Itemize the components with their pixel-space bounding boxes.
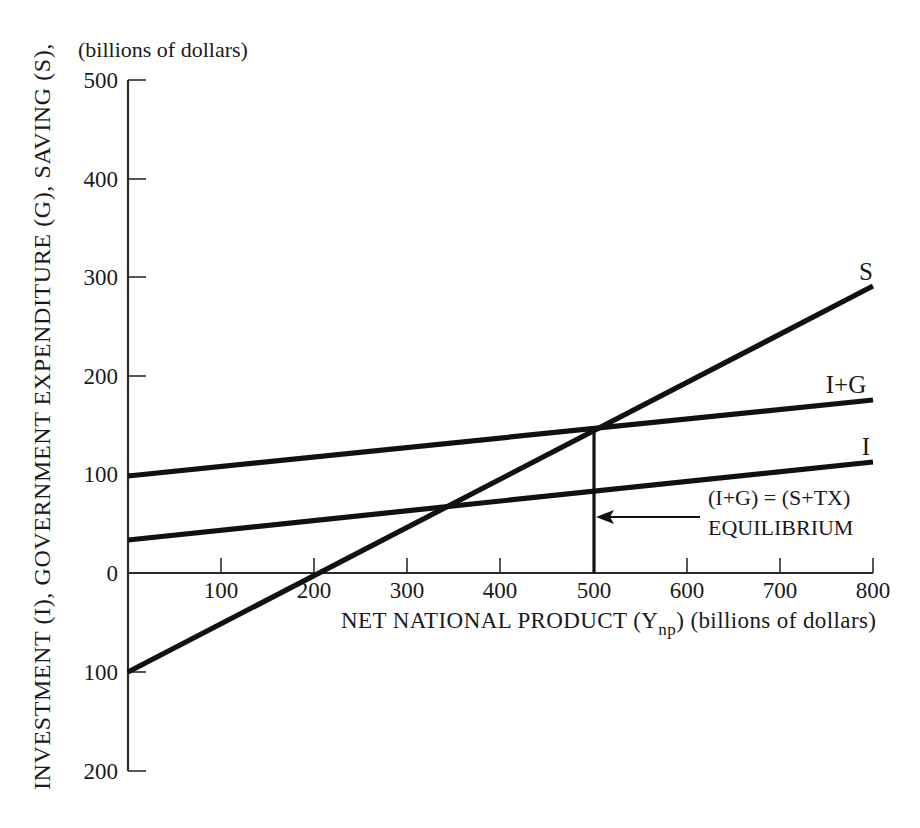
x-tick-label-600: 600 <box>670 578 705 603</box>
y-tick-label-neg200: 200 <box>84 759 119 784</box>
x-axis-title-main: NET NATIONAL PRODUCT (Y <box>341 608 658 633</box>
y-tick-label-500: 500 <box>84 68 119 93</box>
x-axis-title-tail: ) (billions of dollars) <box>676 608 876 633</box>
y-tick-label-300: 300 <box>84 265 119 290</box>
curve-label-i: I <box>862 433 870 460</box>
y-axis-title-group: INVESTMENT (I), GOVERNMENT EXPENDITURE (… <box>29 37 248 790</box>
equilibrium-annotation: (I+G) = (S+TX) EQUILIBRIUM <box>708 485 853 540</box>
equilibrium-annotation-line2: EQUILIBRIUM <box>708 515 853 540</box>
chart-figure: INVESTMENT (I), GOVERNMENT EXPENDITURE (… <box>0 0 920 828</box>
equilibrium-annotation-line1: (I+G) = (S+TX) <box>708 485 850 510</box>
x-axis-title-group: NET NATIONAL PRODUCT (Ynp) (billions of … <box>341 608 876 639</box>
curve-label-s: S <box>859 258 873 285</box>
left-arrow-icon <box>596 510 700 524</box>
x-axis-title: NET NATIONAL PRODUCT (Ynp) (billions of … <box>341 608 876 639</box>
y-tick-label-100: 100 <box>84 462 119 487</box>
y-tick-label-200: 200 <box>84 364 119 389</box>
y-tick-label-neg100: 100 <box>84 660 119 685</box>
y-tick-label-0: 0 <box>107 561 119 586</box>
chart-svg: INVESTMENT (I), GOVERNMENT EXPENDITURE (… <box>0 0 920 828</box>
y-tick-label-400: 400 <box>84 167 119 192</box>
x-tick-label-800: 800 <box>856 578 891 603</box>
y-axis-title: INVESTMENT (I), GOVERNMENT EXPENDITURE (… <box>29 43 55 790</box>
x-axis-title-subscript: np <box>658 620 676 639</box>
x-tick-label-100: 100 <box>204 578 239 603</box>
x-tick-label-500: 500 <box>577 578 612 603</box>
y-tick-labels-group: 500 400 300 200 100 0 100 200 <box>84 68 119 784</box>
curve-label-i-plus-g: I+G <box>826 371 866 398</box>
x-tick-label-300: 300 <box>390 578 425 603</box>
curve-i-plus-g <box>128 400 873 476</box>
axes-group <box>128 80 873 771</box>
x-tick-label-400: 400 <box>483 578 518 603</box>
x-tick-label-700: 700 <box>763 578 798 603</box>
y-axis-units-label: (billions of dollars) <box>78 37 248 62</box>
